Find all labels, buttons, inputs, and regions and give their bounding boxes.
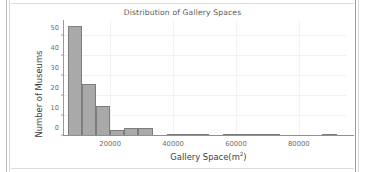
y-tick-label: 30 bbox=[51, 64, 59, 72]
x-axis-line bbox=[63, 135, 354, 136]
y-axis-label: Number of Museums bbox=[34, 35, 44, 153]
histogram-bar bbox=[96, 106, 110, 136]
x-axis-label-main: Gallery Space(m bbox=[170, 152, 239, 162]
chart-title: Distribution of Gallery Spaces bbox=[11, 8, 354, 17]
page-left-border-inner bbox=[9, 0, 10, 172]
y-tick-label: 20 bbox=[51, 84, 59, 92]
gridline-horizontal bbox=[63, 55, 346, 56]
histogram-bar bbox=[82, 84, 96, 136]
page-left-border bbox=[6, 0, 7, 172]
y-tick-label: 50 bbox=[51, 24, 59, 32]
x-tick-label: 60000 bbox=[225, 140, 247, 148]
x-tick-label: 80000 bbox=[288, 140, 310, 148]
chart-screenshot: Distribution of Gallery Spaces 010203040… bbox=[0, 0, 367, 172]
chart-bottom-divider bbox=[11, 168, 354, 169]
y-tick-label: 10 bbox=[51, 104, 59, 112]
chart-container: Distribution of Gallery Spaces 010203040… bbox=[11, 3, 354, 169]
gridline-horizontal bbox=[63, 35, 346, 36]
page-right-border bbox=[355, 0, 356, 172]
x-axis-label: Gallery Space(m2) bbox=[63, 151, 354, 162]
x-axis-label-tail: ) bbox=[243, 152, 246, 162]
y-axis-line bbox=[63, 20, 64, 136]
gridline-horizontal bbox=[63, 75, 346, 76]
y-tick-label: 40 bbox=[51, 44, 59, 52]
x-tick-label: 40000 bbox=[162, 140, 184, 148]
page-right-border-inner bbox=[358, 0, 359, 172]
chart-top-divider bbox=[11, 3, 354, 4]
y-tick-label: 0 bbox=[55, 124, 59, 132]
plot-area: 01020304050 20000400006000080000 bbox=[63, 20, 346, 136]
gridline-horizontal bbox=[63, 95, 346, 96]
x-tick-label: 20000 bbox=[99, 140, 121, 148]
histogram-bar bbox=[68, 26, 82, 136]
